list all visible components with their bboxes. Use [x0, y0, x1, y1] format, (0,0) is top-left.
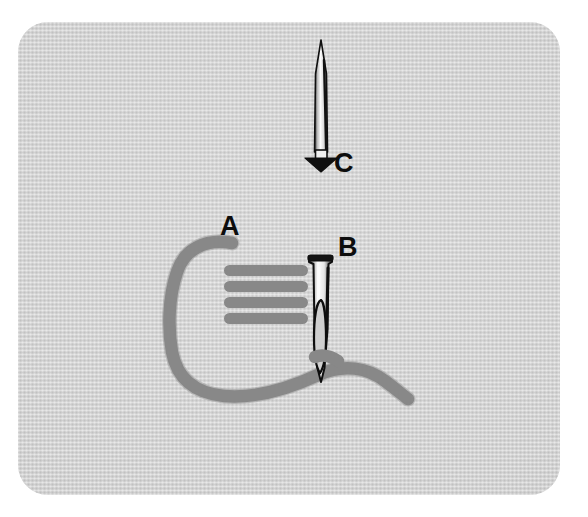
label-a: A [220, 213, 240, 240]
stitch-bar [224, 281, 308, 292]
stitch-bar [224, 313, 308, 324]
label-b: B [338, 234, 358, 261]
embroidery-stitch-diagram: A B C [0, 0, 588, 517]
diagram-artwork-layer [0, 0, 588, 517]
stitch-bar [224, 265, 308, 276]
thread-through-eye [315, 356, 338, 361]
stitch-bar [224, 297, 308, 308]
label-c: C [334, 150, 354, 177]
satin-stitch-rows [224, 265, 308, 324]
needle-c-insertion-direction [305, 40, 337, 172]
